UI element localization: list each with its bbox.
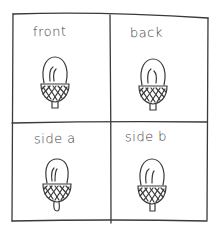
sketch-sheet: front back side a side b [0, 0, 223, 234]
acorn-icon-back [136, 57, 170, 115]
panel-label-back: back [130, 25, 163, 41]
panel-label-side-b: side b [125, 129, 167, 145]
panel-label-side-a: side a [34, 131, 76, 147]
panel-label-front: front [33, 24, 67, 40]
acorn-icon-front [38, 55, 72, 113]
acorn-icon-side-a [40, 157, 74, 215]
acorn-icon-side-b [135, 157, 169, 215]
